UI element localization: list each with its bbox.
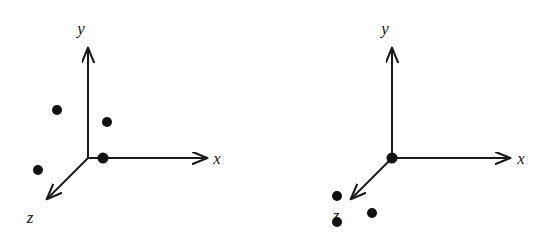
point-at-origin bbox=[387, 153, 398, 164]
z-axis-line bbox=[47, 158, 88, 199]
figure-container: y x z y bbox=[0, 0, 548, 241]
left-axes-diagram: y x z bbox=[0, 0, 274, 241]
z-axis-line bbox=[351, 158, 392, 199]
x-axis-label: x bbox=[516, 149, 525, 168]
right-axis-labels: y x z bbox=[332, 19, 526, 225]
right-axis-lines bbox=[351, 48, 510, 199]
x-axis-label: x bbox=[212, 149, 221, 168]
left-axis-lines bbox=[47, 48, 207, 199]
y-axis-label: y bbox=[75, 19, 85, 38]
point-at-origin bbox=[98, 153, 109, 164]
point-on-z-label bbox=[332, 217, 342, 227]
right-axes-diagram: y x z bbox=[274, 0, 548, 241]
left-data-points bbox=[33, 105, 112, 175]
point-right-of-z-label bbox=[367, 208, 377, 218]
left-axis-labels: y x z bbox=[26, 19, 222, 227]
y-axis-label: y bbox=[379, 19, 389, 38]
point-lower-left bbox=[33, 165, 43, 175]
point-upper-right bbox=[102, 117, 112, 127]
point-upper-left bbox=[52, 105, 62, 115]
left-diagram-svg: y x z bbox=[0, 0, 274, 241]
z-axis-label: z bbox=[26, 208, 34, 227]
right-diagram-svg: y x z bbox=[274, 0, 548, 241]
point-above-z-label bbox=[332, 191, 342, 201]
